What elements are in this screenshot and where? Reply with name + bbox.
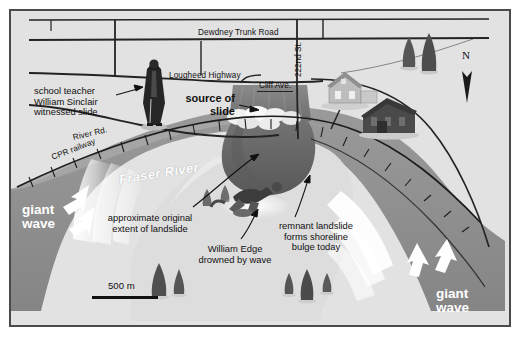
map-artwork [11,11,505,321]
callout-remnant-landslide: remnant landslide forms shoreline bulge … [269,221,363,253]
north-arrow-label: N [462,49,470,61]
label-giant-wave-left: giant wave [22,203,55,231]
road-label-cliff-avenue: Cliff Ave. [257,81,293,92]
road-label-222nd-street: 222nd St. [294,42,303,77]
scale-bar-line [92,296,158,299]
road-label-dewdney-trunk-road: Dewdney Trunk Road [198,28,279,37]
callout-source-of-slide: source of slide [161,92,235,117]
map-panel: Dewdney Trunk Road Lougheed Highway Rive… [9,9,511,327]
scale-bar-label: 500 m [108,280,135,291]
illustrated-map-figure: Dewdney Trunk Road Lougheed Highway Rive… [0,0,528,341]
callout-approximate-extent: approximate original extent of landslide [95,213,205,234]
label-giant-wave-right: giant wave [436,287,469,315]
callout-school-teacher: school teacher William Sinclair witnesse… [34,86,98,118]
road-label-lougheed-highway: Lougheed Highway [169,71,241,80]
